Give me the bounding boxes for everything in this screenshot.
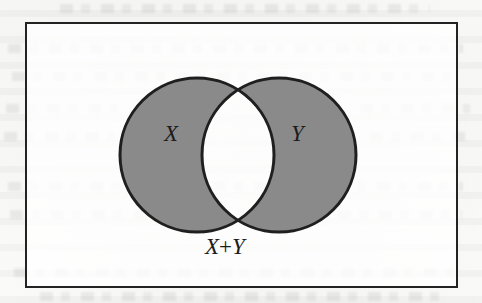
caption-left-operand: X	[205, 234, 219, 259]
set-label-x: X	[164, 121, 178, 147]
caption-x-plus-y: X+Y	[205, 234, 245, 260]
caption-right-operand: Y	[232, 234, 245, 259]
set-label-y: Y	[291, 121, 304, 147]
ghost-text-line	[40, 292, 440, 301]
caption-operator: +	[219, 234, 232, 259]
figure-page: X Y X+Y	[0, 0, 482, 303]
ghost-text-line	[60, 4, 430, 13]
